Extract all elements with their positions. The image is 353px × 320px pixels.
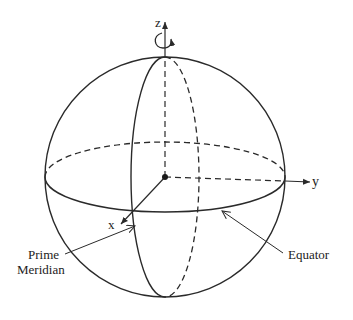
prime-meridian-label-line2: Meridian	[17, 262, 65, 277]
z-axis-label: z	[155, 15, 161, 30]
equator-front	[45, 177, 285, 212]
y-axis	[285, 181, 310, 182]
origin-point	[162, 174, 168, 180]
y-axis-inner	[165, 177, 285, 181]
equator-label: Equator	[288, 247, 330, 262]
prime-meridian-front	[131, 57, 165, 297]
prime-meridian-label-line1: Prime	[28, 247, 59, 262]
sphere-diagram: z y x Prime Meridian Equator	[0, 0, 353, 320]
prime-meridian-pointer	[65, 226, 135, 254]
equator-pointer	[222, 211, 283, 253]
x-axis	[121, 177, 165, 224]
y-axis-label: y	[312, 174, 319, 189]
x-axis-label: x	[108, 217, 115, 232]
rotation-arrow-icon	[155, 33, 171, 48]
